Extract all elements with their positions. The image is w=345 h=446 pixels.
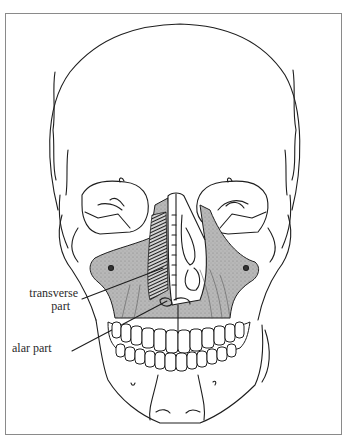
label-transverse-line2: part (12, 300, 78, 313)
left-orbit (82, 181, 148, 234)
skull-illustration (0, 0, 345, 446)
teeth (108, 322, 250, 371)
cranium-outline (50, 24, 300, 210)
label-transverse-part: transverse part (12, 287, 78, 313)
suture-right (292, 70, 296, 180)
nasalis-transverse (148, 212, 168, 300)
chin (150, 375, 205, 420)
suture-left (53, 72, 56, 180)
label-alar-part: alar part (12, 342, 74, 355)
label-alar-text: alar part (12, 341, 52, 355)
